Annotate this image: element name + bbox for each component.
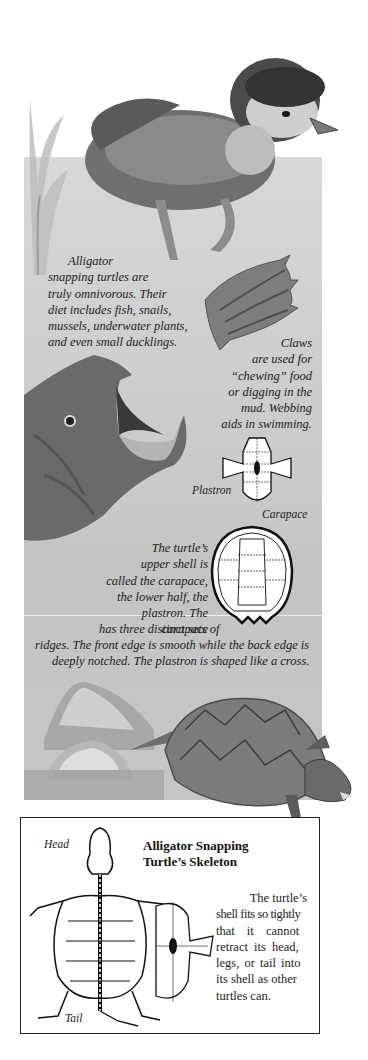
- caption-line: mussels, underwater plants,: [48, 318, 198, 334]
- caption-line: snapping turtles are: [48, 269, 198, 285]
- claws-caption: Claws are used for “chewing” food or dig…: [200, 335, 312, 433]
- shell-caption-line: ridges. The front edge is smooth while t…: [35, 637, 309, 653]
- caption-line: diet includes fish, snails,: [48, 302, 198, 318]
- alligator-snapping-turtle-illustration: [125, 680, 360, 840]
- shell-caption-line: has three distinct sets of: [99, 621, 219, 637]
- caption-line: called the carapace,: [96, 573, 208, 589]
- plastron-label: Plastron: [192, 484, 231, 496]
- tail-label: Tail: [65, 1012, 82, 1024]
- caption-line: truly omnivorous. Their: [48, 286, 198, 302]
- caption-line: are used for: [200, 351, 312, 367]
- caption-line: the lower half, the: [96, 589, 208, 605]
- description-line: The turtle’s: [216, 890, 307, 906]
- diet-caption: Alligator snapping turtles are truly omn…: [48, 253, 198, 351]
- description-line: legs, or tail into: [216, 955, 307, 971]
- caption-line: “chewing” food: [200, 368, 312, 384]
- turtle-head-open-mouth-illustration: [24, 355, 194, 545]
- head-label: Head: [44, 838, 69, 850]
- caption-line: Alligator: [48, 253, 198, 269]
- duckling-illustration: [60, 30, 350, 280]
- caption-line: The turtle’s: [96, 540, 208, 556]
- caption-line: upper shell is: [96, 556, 208, 572]
- caption-line: and even small ducklings.: [48, 334, 198, 350]
- description-line: retract its head,: [216, 939, 307, 955]
- caption-line: mud. Webbing: [200, 400, 312, 416]
- caption-line: aids in swimming.: [200, 416, 312, 432]
- description-line: its shell as other: [216, 971, 307, 987]
- skeleton-title: Alligator Snapping Turtle’s Skeleton: [143, 838, 249, 870]
- skeleton-title-line: Alligator Snapping: [143, 838, 249, 854]
- skeleton-description: The turtle’s shell fits so tightly that …: [216, 890, 307, 1004]
- shell-caption-line: deeply notched. The plastron is shaped l…: [52, 653, 309, 669]
- description-line: shell fits so tightly: [216, 906, 307, 922]
- carapace-diagram: [210, 525, 294, 625]
- caption-line: or digging in the: [200, 384, 312, 400]
- description-line: turtles can.: [216, 988, 307, 1004]
- caption-line: Claws: [200, 335, 312, 351]
- skeleton-title-line: Turtle’s Skeleton: [143, 854, 249, 870]
- carapace-label: Carapace: [262, 508, 307, 520]
- description-line: that it cannot: [216, 923, 307, 939]
